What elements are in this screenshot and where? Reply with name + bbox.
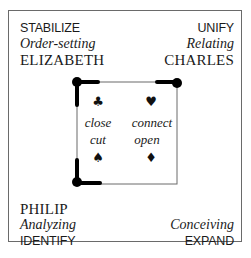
- label-close: close: [68, 115, 128, 131]
- spade-icon: ♠: [88, 150, 108, 165]
- label-connect: connect: [122, 115, 182, 131]
- top-right-bracket: [157, 78, 182, 88]
- label-open: open: [117, 132, 177, 148]
- club-icon: ♣: [88, 94, 108, 109]
- diamond-icon: ♦: [141, 150, 161, 165]
- heart-icon: ♥: [141, 94, 161, 109]
